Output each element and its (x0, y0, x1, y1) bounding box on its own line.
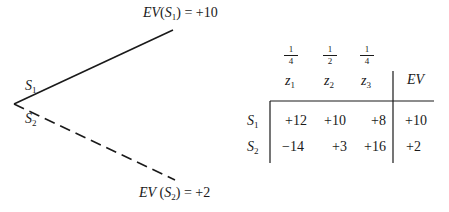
row-header-s1: S1 (247, 114, 259, 128)
branch-s2-line (14, 104, 175, 180)
cell-s2-z2: +3 (307, 140, 347, 154)
column-header-z3: z3 (361, 74, 371, 88)
column-header-ev: EV (407, 73, 424, 87)
cell-s2-z1: −14 (264, 140, 304, 154)
ev-s1-label: EVEV((S1) = +10 (143, 6, 218, 20)
ev-s2-label: EV (S2) = +2 (139, 186, 210, 200)
branch-s1-line (14, 30, 173, 104)
cell-s1-z2: +10 (306, 114, 346, 128)
cell-s2-ev: +2 (381, 140, 421, 154)
cell-s1-z3: +8 (346, 114, 386, 128)
branch-s2-label: S2 (25, 112, 37, 126)
column-header-z1: z1 (285, 74, 295, 88)
cell-s2-z3: +16 (346, 140, 386, 154)
probability-z2: 12 (323, 45, 337, 66)
probability-z1: 14 (284, 45, 298, 66)
row-header-s2: S2 (247, 140, 259, 154)
column-header-z2: z2 (324, 74, 334, 88)
diagram-lines (0, 0, 449, 212)
cell-s1-z1: +12 (267, 114, 307, 128)
cell-s1-ev: +10 (387, 114, 427, 128)
probability-z3: 14 (360, 45, 374, 66)
branch-s1-label: S1 (25, 79, 37, 93)
